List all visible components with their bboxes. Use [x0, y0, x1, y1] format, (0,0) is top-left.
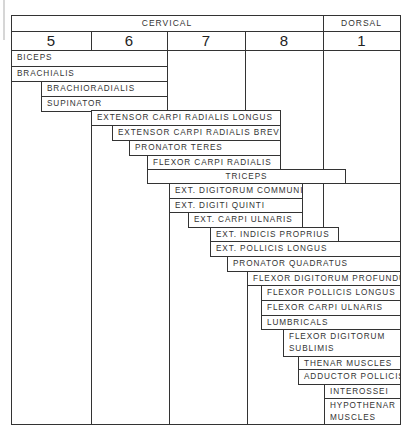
segment-label: 6 [91, 32, 167, 49]
muscle-bar: FLEXOR CARPI RADIALIS [147, 155, 281, 170]
muscle-bar: BRACHIALIS [11, 66, 168, 82]
region-label-cervical: CERVICAL [11, 18, 323, 28]
segment-label: 5 [11, 32, 91, 49]
muscle-bar: EXT. INDICIS PROPRIUS [210, 227, 339, 242]
muscle-bar: EXT. POLLICIS LONGUS [210, 241, 401, 257]
muscle-label-line1: FLEXOR DIGITORUM [289, 331, 400, 343]
muscle-bar: EXT. CARPI ULNARIS [188, 212, 303, 228]
muscle-bar: HYPOTHENARMUSCLES [324, 398, 401, 425]
muscle-bar: BICEPS [11, 50, 168, 67]
segment-label: 8 [245, 32, 323, 49]
muscle-bar: EXT. DIGITI QUINTI [169, 198, 303, 213]
muscle-label-line1: HYPOTHENAR [330, 400, 400, 412]
muscle-label-line2: SUBLIMIS [289, 343, 400, 355]
muscle-bar: FLEXOR DIGITORUM PROFUNDUS [247, 271, 401, 286]
column-divider [323, 31, 324, 169]
muscle-bar: EXTENSOR CARPI RADIALIS BREVIS [112, 125, 281, 141]
muscle-bar: THENAR MUSCLES [298, 356, 401, 370]
muscle-bar: INTEROSSEI [324, 384, 401, 399]
segment-label: 1 [323, 32, 400, 49]
muscle-label-line2: MUSCLES [330, 412, 400, 424]
muscle-bar: EXTENSOR CARPI RADIALIS LONGUS [91, 110, 281, 126]
frame-top [11, 15, 401, 16]
muscle-bar: LUMBRICALS [261, 315, 401, 330]
muscle-bar: BRACHIORADIALIS [41, 81, 168, 97]
muscle-bar: PRONATOR TERES [129, 140, 281, 156]
segment-label: 7 [167, 32, 245, 49]
column-divider [247, 271, 248, 424]
region-label-dorsal: DORSAL [323, 18, 400, 28]
muscle-bar: TRICEPS [147, 169, 346, 184]
muscle-bar: EXT. DIGITORUM COMMUNIS [169, 183, 303, 199]
muscle-bar: FLEXOR CARPI ULNARIS [261, 300, 401, 316]
column-divider [169, 183, 170, 424]
muscle-bar: FLEXOR DIGITORUMSUBLIMIS [283, 329, 401, 357]
innervation-diagram: CERVICALDORSAL56781 BICEPSBRACHIALISBRAC… [0, 0, 413, 430]
column-divider [91, 110, 92, 424]
row-divider [345, 183, 400, 184]
muscle-bar: FLEXOR POLLICIS LONGUS [261, 285, 401, 301]
muscle-bar: PRONATOR QUADRATUS [227, 256, 401, 272]
muscle-bar: ADDUCTOR POLLICIS [298, 369, 401, 385]
